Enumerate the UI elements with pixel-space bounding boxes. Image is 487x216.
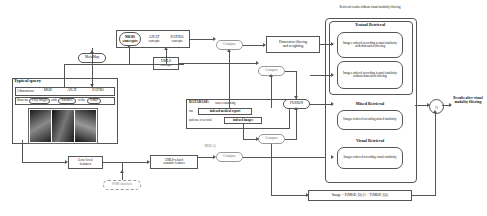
- diagram-canvas: MOD concepts ANATconcepts PATHOconcepts …: [0, 0, 487, 216]
- patho-concepts-node: PATHOconcepts: [165, 35, 189, 44]
- database-title: DATABASE:: [189, 101, 215, 105]
- final-results-label: Results after visual modality filtering: [451, 97, 485, 105]
- compare-bottom-node[interactable]: Compare: [216, 152, 243, 162]
- visual-retrieval-title: Visual Retrieval: [331, 139, 409, 143]
- mod-concepts-node[interactable]: MOD concepts: [119, 32, 141, 46]
- indexed-report-node[interactable]: indexed medical report: [198, 108, 252, 115]
- visual-retrieval-item-0[interactable]: Images ordered according visual similari…: [337, 147, 403, 169]
- results-caption: Retrieval results without visual modalit…: [327, 6, 413, 9]
- low-level-features-line2: features: [80, 163, 91, 167]
- umls-semantic-features-node[interactable]: UMLS-related semantic features: [150, 155, 198, 169]
- mixed-retrieval-item-0[interactable]: Images ordered according mixed similarit…: [337, 110, 403, 130]
- textual-retrieval-title: Textual Retrieval: [331, 23, 409, 27]
- results-caption-text: Retrieval results without visual modalit…: [339, 5, 400, 9]
- umls-semantic-line2: semantic features: [163, 162, 185, 165]
- database-desc-1: cases containing: [215, 102, 247, 105]
- query-thumbnails: [28, 108, 98, 144]
- query-part-5: femur: [87, 98, 101, 104]
- dimension-filtering-line2: and weighting: [283, 45, 303, 49]
- query-part-0: Show me: [16, 99, 29, 102]
- low-level-features-node[interactable]: Low level features: [68, 156, 103, 169]
- query-part-2: with: [50, 99, 58, 102]
- database-desc-2: one: [189, 110, 197, 113]
- thumbnail-image: [75, 110, 96, 142]
- query-part-4: of the: [76, 99, 87, 102]
- indexed-images-node[interactable]: indexed images: [224, 117, 262, 124]
- intersection-symbol: ∩: [435, 104, 439, 110]
- dimension-mod: MOD: [40, 89, 56, 93]
- dimension-anat: ANAT: [63, 89, 81, 93]
- mod-concepts-title: MOD concepts: [121, 35, 139, 44]
- svm-classifiers-node[interactable]: SVM classifiers: [103, 180, 141, 190]
- mod-q-label: MOD_Q: [202, 145, 218, 148]
- mixed-retrieval-title: Mixed Retrieval: [331, 102, 409, 106]
- dimension-filtering-node[interactable]: Dimension filtering and weighting: [266, 36, 320, 53]
- dimension-label: 3 dimensions:: [17, 90, 41, 93]
- anat-concepts-node: ANATconcepts: [143, 35, 165, 44]
- thumbnail-image: [30, 110, 51, 142]
- thumbnail-image: [52, 110, 73, 142]
- query-part-1: x-ray images: [29, 98, 50, 104]
- compare-low-node[interactable]: Compare: [258, 134, 285, 144]
- dimension-patho: PATHO: [88, 89, 108, 93]
- database-desc-3: and one or several: [189, 119, 223, 122]
- formula-node: Image = P(MOD_Q) (1 + T(MOD_Q)): [308, 190, 412, 201]
- query-part-3: fractures: [58, 98, 76, 104]
- textual-retrieval-item-1[interactable]: Images ordered according textual similar…: [337, 61, 403, 89]
- typical-query-heading: Typical query: [14, 79, 54, 84]
- textual-retrieval-item-0[interactable]: Images ordered according textual similar…: [337, 32, 403, 58]
